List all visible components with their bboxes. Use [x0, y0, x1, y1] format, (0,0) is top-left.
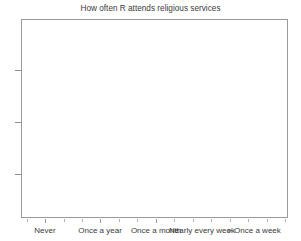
- x-axis-tick: [100, 219, 101, 223]
- x-axis-label: Once a year: [78, 225, 122, 236]
- x-axis-label: > Once a week: [227, 225, 281, 236]
- x-axis-label: Never: [34, 225, 55, 236]
- x-axis-tick: [211, 219, 212, 222]
- plot-area: [22, 20, 287, 217]
- x-axis-tick: [137, 219, 138, 222]
- x-axis-tick: [285, 219, 286, 222]
- x-axis-tick: [193, 219, 194, 222]
- plot-frame: [21, 19, 288, 218]
- x-axis-tick: [248, 219, 249, 222]
- x-axis-tick: [119, 219, 120, 222]
- chart-title: How often R attends religious services: [0, 4, 301, 14]
- x-axis-tick: [45, 219, 46, 223]
- x-axis-tick: [174, 219, 175, 222]
- x-axis-tick: [82, 219, 83, 222]
- x-axis-tick: [230, 219, 231, 222]
- y-axis-tick: [15, 122, 21, 123]
- y-axis-tick: [15, 70, 21, 71]
- x-axis-tick: [267, 219, 268, 222]
- x-axis-label: Nearly every week: [169, 225, 235, 236]
- y-axis-tick: [15, 174, 21, 175]
- x-axis-tick: [27, 219, 28, 222]
- chart-figure: How often R attends religious services N…: [0, 0, 301, 241]
- x-axis-tick: [156, 219, 157, 223]
- x-axis-tick: [64, 219, 65, 222]
